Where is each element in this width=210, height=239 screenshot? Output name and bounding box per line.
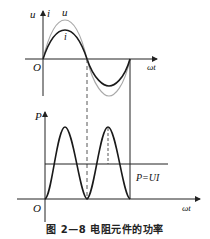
- top-y-label-i: i: [47, 8, 50, 19]
- top-plot: [25, 11, 157, 96]
- bottom-y-label-p: P: [35, 111, 42, 122]
- power-curve: [45, 127, 130, 199]
- bottom-plot: [17, 112, 200, 222]
- average-power-label: P=UI: [136, 173, 159, 183]
- bottom-x-axis-label: ωt: [182, 204, 191, 213]
- bottom-origin-label: O: [33, 203, 41, 214]
- current-curve: [43, 30, 130, 86]
- voltage-curve-label: u: [62, 7, 68, 18]
- figure-canvas: [0, 0, 210, 239]
- top-y-label-u: u: [30, 9, 36, 20]
- current-curve-label: i: [64, 32, 67, 42]
- figure-caption: 图 2—8 电阻元件的功率: [0, 221, 210, 236]
- top-origin-label: O: [33, 62, 41, 73]
- top-x-axis-label: ωt: [147, 63, 156, 72]
